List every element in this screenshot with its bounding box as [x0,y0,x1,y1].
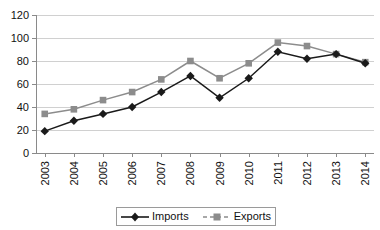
x-tick-label: 2006 [126,161,138,185]
x-tick-label: 2004 [68,161,80,185]
y-tick-label: 20 [17,124,29,136]
x-tick-label: 2013 [330,161,342,185]
line-chart: 020406080100120 200320042005200620072008… [0,0,380,230]
y-tick-label: 40 [17,101,29,113]
data-point [71,106,78,113]
data-point [99,110,107,118]
data-point [187,58,194,65]
x-tick-label: 2011 [272,161,284,185]
x-tick-label: 2005 [97,161,109,185]
exports-marker-icon [203,211,231,223]
legend-label-imports: Imports [152,211,189,222]
x-tick-label: 2014 [359,161,371,185]
x-tick-label: 2003 [39,161,51,185]
data-point [275,39,282,46]
y-tick-label: 120 [11,9,29,21]
chart-plot-area: 020406080100120 200320042005200620072008… [0,0,380,230]
x-tick-label: 2010 [243,161,255,185]
series-exports [41,39,368,117]
data-point [158,76,165,83]
data-point [128,103,136,111]
x-axis-tick-labels: 2003200420052006200720082009201020112012… [39,161,372,185]
data-point [100,97,107,104]
x-tick-label: 2009 [214,161,226,185]
imports-marker-icon [121,211,149,223]
x-tick-label: 2007 [155,161,167,185]
data-point [129,89,136,96]
y-tick-label: 0 [23,147,29,159]
x-tick-label: 2008 [184,161,196,185]
data-point [304,43,311,50]
y-tick-label: 60 [17,78,29,90]
y-tick-label: 100 [11,32,29,44]
gridlines [36,16,374,131]
y-axis-tick-labels: 020406080100120 [11,9,29,159]
chart-legend: Imports Exports [116,207,276,226]
y-axis [32,15,37,154]
y-tick-label: 80 [17,55,29,67]
data-point [41,111,48,118]
series-imports [41,48,370,136]
legend-entry-imports: Imports [121,211,189,223]
data-point [70,117,78,125]
data-point [157,88,165,96]
data-point [245,60,252,67]
series-line [45,52,366,131]
legend-entry-exports: Exports [203,211,271,223]
legend-label-exports: Exports [234,211,271,222]
data-point [41,127,49,135]
series-line [45,43,366,114]
x-axis [36,153,374,157]
x-tick-label: 2012 [301,161,313,185]
data-point [216,75,223,82]
